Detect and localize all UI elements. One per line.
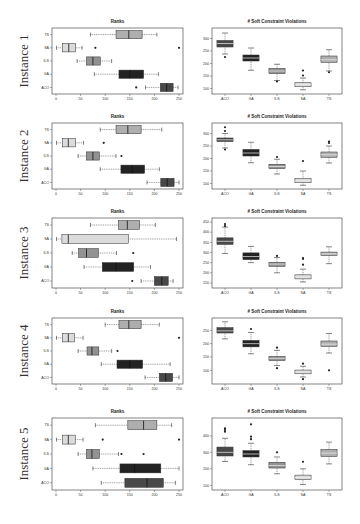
outlier-point bbox=[94, 47, 96, 49]
y-tick-label: 250 bbox=[203, 144, 209, 148]
box-hatch bbox=[295, 179, 311, 183]
y-tick-label: 100 bbox=[203, 87, 209, 91]
x-tick-label: 100 bbox=[102, 97, 108, 101]
x-tick-label: 50 bbox=[79, 387, 83, 391]
box-hatch bbox=[121, 165, 145, 173]
box-hatch bbox=[128, 421, 157, 430]
violations-plot-3: # Soft Constraint Violations150200250300… bbox=[203, 209, 342, 295]
x-tick-label: 100 bbox=[102, 493, 108, 497]
box-hatch bbox=[87, 347, 99, 355]
outlier-point bbox=[224, 427, 226, 429]
y-tick-label: TS bbox=[44, 33, 49, 37]
plot-title: # Soft Constraint Violations bbox=[248, 114, 307, 119]
y-tick-label: SA bbox=[44, 336, 49, 340]
instance-label: Instance 5 bbox=[16, 427, 31, 480]
x-tick-label: 0 bbox=[55, 192, 57, 196]
outlier-point bbox=[250, 438, 252, 440]
outlier-point bbox=[276, 347, 278, 349]
y-tick-label: ILS bbox=[44, 59, 50, 63]
outlier-point bbox=[132, 252, 134, 254]
plot-title: Ranks bbox=[111, 409, 125, 414]
x-tick-label: ACO bbox=[221, 192, 229, 196]
y-tick-label: 300 bbox=[203, 251, 209, 255]
plot-title: Ranks bbox=[111, 309, 125, 314]
y-tick-label: 400 bbox=[203, 434, 209, 438]
x-tick-label: SA bbox=[301, 97, 306, 101]
violations-plot-5: # Soft Constraint Violations100200300400… bbox=[203, 409, 342, 497]
x-tick-label: 250 bbox=[176, 192, 182, 196]
y-tick-label: SA bbox=[44, 141, 49, 145]
y-tick-label: SA bbox=[44, 46, 49, 50]
x-tick-label: TS bbox=[327, 291, 332, 295]
y-tick-label: 200 bbox=[203, 62, 209, 66]
box-hatch bbox=[217, 447, 233, 456]
y-tick-label: 200 bbox=[203, 271, 209, 275]
x-tick-label: 100 bbox=[102, 387, 108, 391]
outlier-point bbox=[302, 363, 304, 365]
x-tick-label: ILS bbox=[274, 97, 280, 101]
y-tick-label: 300 bbox=[203, 451, 209, 455]
outlier-point bbox=[328, 71, 330, 73]
outlier-point bbox=[103, 142, 105, 144]
x-tick-label: ACO bbox=[221, 387, 229, 391]
y-tick-label: GA bbox=[44, 362, 50, 366]
plot-title: # Soft Constraint Violations bbox=[248, 209, 307, 214]
outlier-point bbox=[302, 74, 304, 76]
box-hatch bbox=[118, 221, 139, 230]
x-tick-label: 150 bbox=[127, 97, 133, 101]
y-tick-label: 150 bbox=[203, 74, 209, 78]
x-tick-label: 0 bbox=[55, 387, 57, 391]
instance-label: Instance 4 bbox=[16, 324, 31, 378]
x-tick-label: 200 bbox=[151, 192, 157, 196]
outlier-point bbox=[276, 255, 278, 257]
x-tick-label: 100 bbox=[102, 291, 108, 295]
outlier-point bbox=[120, 453, 122, 455]
x-tick-label: GA bbox=[248, 291, 254, 295]
y-tick-label: 200 bbox=[203, 342, 209, 346]
y-tick-label: ACO bbox=[41, 279, 49, 283]
outlier-point bbox=[302, 69, 304, 71]
y-tick-label: ACO bbox=[41, 481, 49, 485]
x-tick-label: 150 bbox=[127, 192, 133, 196]
outlier-point bbox=[302, 378, 304, 380]
outlier-point bbox=[135, 86, 137, 88]
outlier-point bbox=[224, 223, 226, 225]
instance-label: Instance 1 bbox=[16, 34, 31, 87]
x-tick-label: GA bbox=[248, 387, 254, 391]
y-tick-label: 150 bbox=[203, 281, 209, 285]
x-tick-label: TS bbox=[327, 97, 332, 101]
instance-label: Instance 2 bbox=[16, 129, 31, 182]
ranks-plot-2: Instance 2Ranks050100150200250TSSAILSGAA… bbox=[16, 114, 183, 196]
x-tick-label: GA bbox=[248, 493, 254, 497]
plot-title: Ranks bbox=[111, 114, 125, 119]
y-tick-label: 100 bbox=[203, 369, 209, 373]
box-hatch bbox=[120, 464, 161, 473]
ranks-plot-3: Instance 3Ranks050100150200250TSSAILSGAA… bbox=[16, 209, 183, 295]
x-tick-label: 150 bbox=[127, 493, 133, 497]
box-hatch bbox=[125, 478, 163, 487]
x-tick-label: GA bbox=[248, 192, 254, 196]
outlier-point bbox=[250, 423, 252, 425]
y-tick-label: 200 bbox=[203, 157, 209, 161]
box-hatch bbox=[62, 139, 75, 147]
y-tick-label: ACO bbox=[41, 181, 49, 185]
y-tick-label: 100 bbox=[203, 182, 209, 186]
y-tick-label: TS bbox=[44, 423, 49, 427]
outlier-point bbox=[116, 350, 118, 352]
x-tick-label: 50 bbox=[79, 192, 83, 196]
y-tick-label: GA bbox=[44, 72, 50, 76]
x-tick-label: TS bbox=[327, 387, 332, 391]
y-tick-label: TS bbox=[44, 223, 49, 227]
y-tick-label: 250 bbox=[203, 261, 209, 265]
y-tick-label: ILS bbox=[44, 349, 50, 353]
outlier-point bbox=[250, 328, 252, 330]
box-hatch bbox=[321, 341, 337, 346]
outlier-point bbox=[328, 369, 330, 371]
plot-title: Ranks bbox=[111, 19, 125, 24]
outlier-point bbox=[142, 453, 144, 455]
x-tick-label: ACO bbox=[221, 493, 229, 497]
x-tick-label: ACO bbox=[221, 97, 229, 101]
y-tick-label: 300 bbox=[203, 37, 209, 41]
y-tick-label: 200 bbox=[203, 467, 209, 471]
y-tick-label: 350 bbox=[203, 241, 209, 245]
